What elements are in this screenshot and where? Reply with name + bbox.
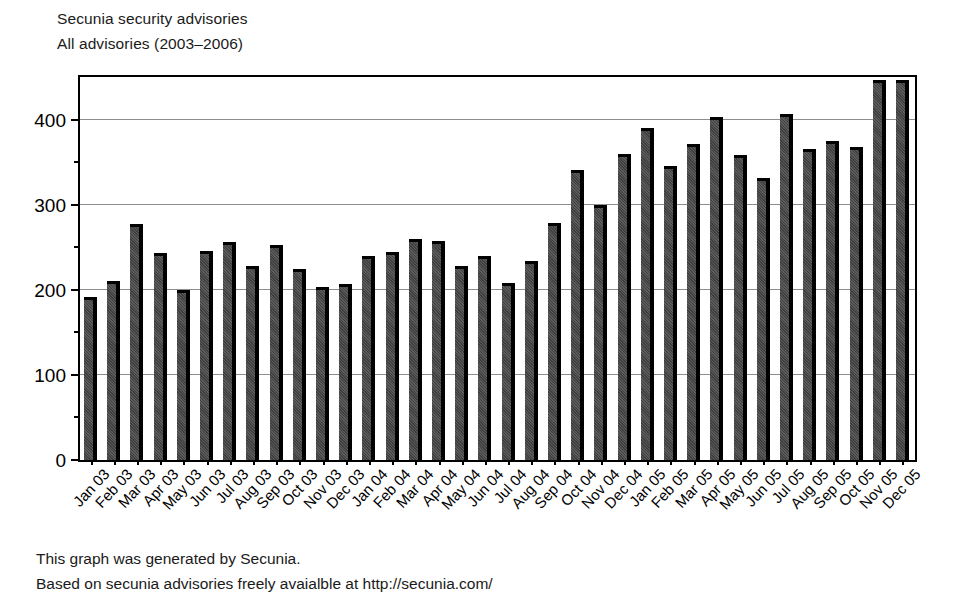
x-tick-dec-04 [624,460,626,465]
x-tick-may-03 [183,460,185,465]
bar-mar-03 [130,224,143,460]
y-axis-label-0: 0 [55,451,66,470]
bar-dec-05 [896,80,909,460]
x-tick-may-05 [740,460,742,465]
x-tick-mar-04 [415,460,417,465]
y-tick-300 [71,204,80,206]
x-tick-feb-05 [670,460,672,465]
x-tick-aug-04 [531,460,533,465]
x-tick-mar-05 [694,460,696,465]
x-tick-oct-04 [578,460,580,465]
x-tick-apr-03 [160,460,162,465]
bar-apr-04 [432,241,445,460]
y-tick-400 [71,119,80,121]
x-tick-sep-05 [833,460,835,465]
x-tick-aug-05 [810,460,812,465]
y-tick-100 [71,374,80,376]
x-tick-jul-05 [786,460,788,465]
chart-subtitle: All advisories (2003–2006) [57,31,248,56]
y-minor-tick-250 [74,246,80,248]
bar-feb-03 [107,281,120,460]
x-tick-apr-04 [439,460,441,465]
x-tick-jul-04 [508,460,510,465]
bar-may-05 [734,155,747,460]
bar-aug-04 [525,261,538,460]
bar-sep-05 [826,141,839,460]
y-minor-tick-50 [74,416,80,418]
bar-jan-04 [362,256,375,460]
bar-aug-05 [803,149,816,461]
bar-mar-05 [687,144,700,460]
x-axis-labels: Jan 03Feb 03Mar 03Apr 03May 03Jun 03Jul … [78,466,917,546]
chart-page: Secunia security advisories All advisori… [0,0,956,602]
x-tick-feb-04 [392,460,394,465]
x-tick-nov-04 [601,460,603,465]
x-tick-jan-04 [369,460,371,465]
bar-sep-03 [270,245,283,460]
bar-may-04 [455,266,468,460]
x-tick-oct-03 [299,460,301,465]
bar-may-03 [177,290,190,460]
bar-oct-03 [293,269,306,460]
x-tick-jan-05 [647,460,649,465]
y-tick-200 [71,289,80,291]
bar-feb-05 [664,166,677,460]
bar-jan-03 [84,297,97,460]
bar-nov-03 [316,287,329,460]
x-tick-dec-03 [346,460,348,465]
x-tick-jan-03 [91,460,93,465]
x-tick-dec-05 [902,460,904,465]
chart-footer: This graph was generated by Secunia. Bas… [36,546,493,596]
y-minor-tick-350 [74,161,80,163]
page-title: Secunia security advisories [57,6,248,31]
bar-feb-04 [386,252,399,460]
bar-mar-04 [409,239,422,460]
bar-dec-04 [618,154,631,460]
x-tick-nov-05 [879,460,881,465]
bar-jul-04 [502,283,515,460]
bar-nov-04 [594,205,607,460]
chart-plot-area: 0100200300400 [78,75,917,462]
x-tick-mar-03 [137,460,139,465]
bar-jul-03 [223,242,236,460]
bar-jan-05 [641,128,654,460]
bar-apr-05 [710,117,723,460]
x-tick-feb-03 [114,460,116,465]
x-tick-apr-05 [717,460,719,465]
bar-oct-04 [571,170,584,460]
y-axis-label-400: 400 [34,110,66,129]
x-tick-jun-03 [207,460,209,465]
y-tick-0 [71,459,80,461]
y-axis-label-300: 300 [34,195,66,214]
x-tick-nov-03 [323,460,325,465]
y-axis-label-100: 100 [34,365,66,384]
bar-nov-05 [873,80,886,460]
bar-jun-05 [757,178,770,460]
chart-title-block: Secunia security advisories All advisori… [57,6,248,56]
chart-plot-inner [80,77,915,460]
y-axis-label-200: 200 [34,280,66,299]
x-tick-sep-03 [276,460,278,465]
bar-apr-03 [154,253,167,460]
bar-aug-03 [246,266,259,460]
x-tick-sep-04 [554,460,556,465]
footer-line-source: Based on secunia advisories freely avaia… [36,571,493,596]
x-tick-aug-03 [253,460,255,465]
bar-jun-04 [478,256,491,460]
bar-oct-05 [850,147,863,460]
x-tick-may-04 [462,460,464,465]
bar-sep-04 [548,223,561,460]
x-tick-jun-04 [485,460,487,465]
y-minor-tick-150 [74,331,80,333]
bar-jun-03 [200,251,213,460]
bar-dec-03 [339,284,352,460]
x-tick-jul-03 [230,460,232,465]
x-tick-oct-05 [856,460,858,465]
x-tick-jun-05 [763,460,765,465]
bar-jul-05 [780,114,793,460]
footer-line-generated: This graph was generated by Secunia. [36,546,493,571]
